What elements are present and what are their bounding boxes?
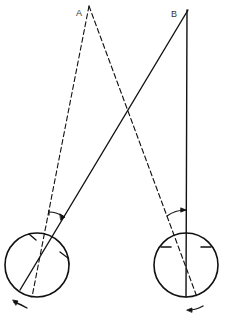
dashed-line-a-right — [89, 6, 197, 297]
point-a-label: A — [76, 8, 82, 18]
eye-convergence-diagram: A B — [0, 0, 225, 317]
solid-line-b-vertical — [186, 10, 187, 297]
solid-line-b-left — [20, 10, 188, 290]
left-eye-tick-top — [29, 234, 36, 240]
right-angle-arrowhead-icon — [181, 208, 186, 212]
point-b-label: B — [171, 9, 177, 19]
dashed-line-a-left — [32, 6, 89, 297]
right-rotation-arrowhead-icon — [187, 308, 192, 312]
left-eye-circle — [5, 233, 69, 297]
